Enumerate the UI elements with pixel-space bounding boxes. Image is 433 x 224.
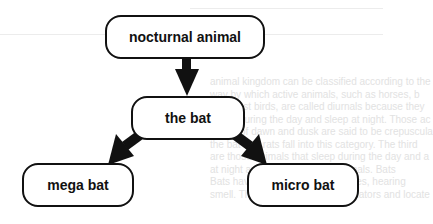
node-label: nocturnal animal xyxy=(129,29,241,45)
node-the-bat: the bat xyxy=(131,96,245,140)
node-label: mega bat xyxy=(47,177,108,193)
node-label: the bat xyxy=(165,110,211,126)
node-label: micro bat xyxy=(271,177,334,193)
node-nocturnal-animal: nocturnal animal xyxy=(105,15,265,59)
arrow-root-to-bat xyxy=(175,58,199,96)
node-mega-bat: mega bat xyxy=(22,163,134,207)
node-micro-bat: micro bat xyxy=(247,163,359,207)
